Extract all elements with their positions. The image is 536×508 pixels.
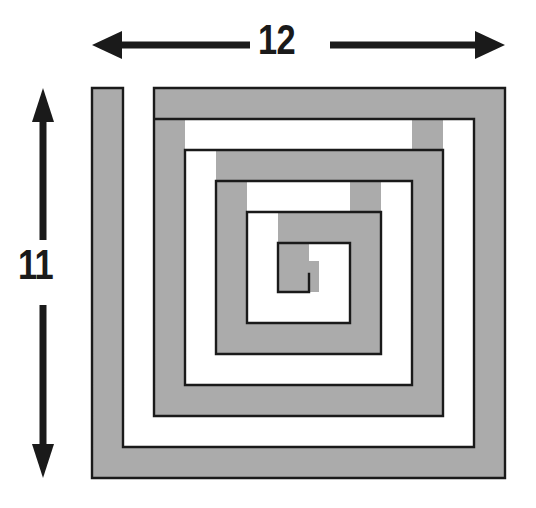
v-arrow-head-up — [32, 88, 54, 122]
h-arrow-head-right — [475, 31, 505, 59]
horizontal-dimension-arrow — [92, 31, 505, 59]
h-arrow-head-left — [92, 31, 122, 59]
height-dimension-label: 11 — [18, 244, 53, 286]
width-dimension-label: 12 — [258, 19, 295, 61]
dimension-arrows-svg — [0, 0, 536, 508]
v-arrow-head-down — [32, 444, 54, 478]
figure-container: 12 11 — [0, 0, 536, 508]
